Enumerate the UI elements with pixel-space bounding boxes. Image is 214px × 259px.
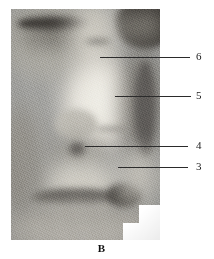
plate-region-right-orbit-rim-highlight [123, 15, 160, 37]
anatomical-figure-panel: 6543 B [0, 0, 214, 259]
leader-3-label: 3 [196, 161, 202, 172]
leader-4-line [85, 146, 188, 147]
leader-5-label: 5 [196, 90, 202, 101]
plate-corner-bleed-bottom-right [123, 223, 160, 240]
panel-caption: B [0, 243, 203, 254]
leader-3-line [118, 167, 188, 168]
leader-5-line [115, 96, 191, 97]
plate-region-lateral-lower-pale-wedge [119, 149, 157, 201]
plate-region-medial-canthal-tendon-ridge [55, 109, 97, 139]
leader-6-line [100, 57, 190, 58]
plate-region-duct-opening-dark-notch [69, 143, 85, 157]
plate-region-vessel-streak-mid [95, 127, 129, 131]
dissection-photograph [11, 9, 160, 240]
leader-6-label: 6 [196, 51, 202, 62]
leader-4-label: 4 [196, 140, 202, 151]
plate-region-vessel-streak-upper [85, 39, 111, 44]
plate-region-lateral-fascia-edge [135, 61, 155, 157]
